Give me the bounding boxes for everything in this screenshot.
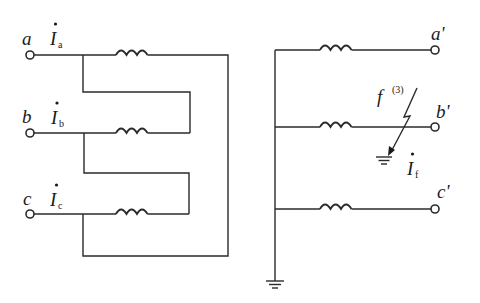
label-b-prime: b' <box>436 101 451 122</box>
svg-text:I: I <box>50 107 59 128</box>
terminal-b-icon <box>26 129 34 137</box>
svg-text:(3): (3) <box>392 84 404 96</box>
terminal-c-prime-icon <box>431 205 439 213</box>
inductor-c-prime-icon <box>320 205 352 210</box>
svg-text:b: b <box>59 118 64 129</box>
svg-text:f: f <box>377 86 385 107</box>
svg-text:f: f <box>415 169 419 180</box>
inductor-b-prime-icon <box>320 123 352 128</box>
current-Ic: I c <box>49 183 63 211</box>
current-Ia: I a <box>49 22 63 50</box>
label-b: b <box>22 106 32 127</box>
label-a: a <box>22 28 32 49</box>
terminal-c-icon <box>26 210 34 218</box>
label-a-prime: a' <box>431 23 446 44</box>
svg-text:a: a <box>58 39 63 50</box>
fault-lightning-arrow-icon <box>388 88 417 156</box>
fault-ground-icon <box>376 157 392 164</box>
current-If: I f <box>406 152 419 180</box>
left-winding <box>26 51 228 257</box>
terminal-a-icon <box>26 51 34 59</box>
circuit-diagram: a I a b I b c I c <box>0 0 480 303</box>
terminal-b-prime-icon <box>431 123 439 131</box>
svg-text:I: I <box>49 28 58 49</box>
svg-text:I: I <box>406 158 415 179</box>
ground-icon <box>266 281 284 288</box>
circuit-svg: a I a b I b c I c <box>0 0 480 303</box>
current-Ib: I b <box>50 101 64 129</box>
label-c-prime: c' <box>437 181 450 202</box>
inductor-a-icon <box>116 51 148 56</box>
label-c: c <box>23 188 32 209</box>
terminal-a-prime-icon <box>431 46 439 54</box>
fault-label: f (3) <box>377 84 404 107</box>
inductor-b-icon <box>116 129 148 134</box>
inductor-c-icon <box>116 210 148 215</box>
inductor-a-prime-icon <box>320 46 352 51</box>
svg-text:c: c <box>58 200 63 211</box>
svg-text:I: I <box>49 189 58 210</box>
